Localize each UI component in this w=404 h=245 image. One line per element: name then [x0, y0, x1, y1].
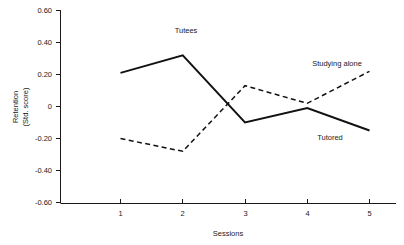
x-tick-label-5: 5 — [367, 209, 371, 218]
series-annotation-studying-alone: Studying alone — [312, 59, 362, 68]
y-tick-label-020: 0.20 — [37, 70, 52, 79]
x-axis-title: Sessions — [213, 229, 244, 238]
y-tick-label-0: 0 — [48, 102, 52, 111]
x-tick-label-3: 3 — [243, 209, 247, 218]
series-annotation-tutees: Tutees — [175, 26, 198, 35]
y-tick-label-neg040: -0.40 — [35, 166, 52, 175]
y-tick-label-060: 0.60 — [37, 6, 52, 15]
y-tick-label-neg020: -0.20 — [35, 134, 52, 143]
y-axis-title-line1: Retention — [11, 91, 20, 123]
y-tick-label-neg060: -0.60 — [35, 198, 52, 207]
y-axis-title: Retention (Std. score) — [11, 87, 30, 126]
x-tick-label-2: 2 — [180, 209, 184, 218]
y-axis-title-line2: (Std. score) — [21, 87, 30, 126]
y-tick-label-040: 0.40 — [37, 38, 52, 47]
x-tick-label-4: 4 — [305, 209, 309, 218]
chart-canvas: 0.60 0.40 0.20 0 -0.20 -0.40 -0.60 Reten… — [0, 0, 404, 245]
series-annotation-tutored: Tutored — [317, 133, 343, 142]
retention-line-chart: 0.60 0.40 0.20 0 -0.20 -0.40 -0.60 Reten… — [0, 0, 404, 245]
x-tick-label-1: 1 — [118, 209, 122, 218]
